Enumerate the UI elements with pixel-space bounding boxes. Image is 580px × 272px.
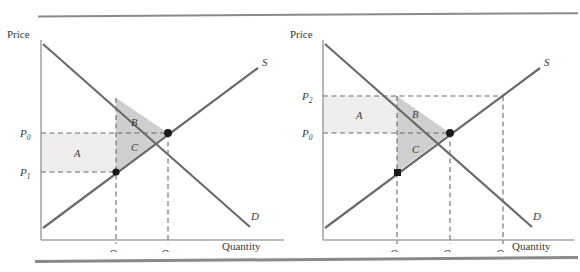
left-price-axis-label: Price [7,28,30,40]
left-supply-demand-chart: Price Quantity S D P0 P1 Q1 Q0 A B C [0,22,290,252]
right-equilibrium-dot [446,129,454,137]
right-demand-curve-label: D [532,210,541,222]
left-region-b-label: B [131,117,138,128]
right-price-tick-0: P0 [301,127,313,142]
left-quantity-axis-label: Quantity [222,240,261,252]
right-demand-curve [325,44,532,227]
left-price-tick-0: P0 [19,127,31,142]
right-supply-curve-label: S [544,56,550,68]
left-region-c-label: C [131,142,139,153]
region-c-right [397,133,450,172]
right-region-c-label: C [412,144,420,155]
left-second-dot [112,168,119,175]
top-divider-rule [0,10,580,22]
right-supply-demand-chart: Price Quantity S D P2 P0 Q3 Q0 Q2 A B C [290,22,580,252]
right-quantity-axis-label: Quantity [512,240,551,252]
left-equilibrium-dot [164,129,172,137]
right-price-tick-2: P2 [301,90,313,105]
left-supply-curve-label: S [262,56,268,68]
right-region-a-label: A [355,110,363,121]
left-region-a-label: A [73,148,81,159]
right-price-axis-label: Price [290,28,313,40]
figure-canvas: Price Quantity S D P0 P1 Q1 Q0 A B C [0,0,580,272]
right-second-dot [394,169,401,176]
left-demand-curve-label: D [250,210,259,222]
right-region-b-label: B [412,109,419,120]
region-c-left [116,133,168,172]
bottom-divider-rule [0,252,580,266]
left-price-tick-1: P1 [19,166,30,181]
right-supply-curve [325,68,540,228]
